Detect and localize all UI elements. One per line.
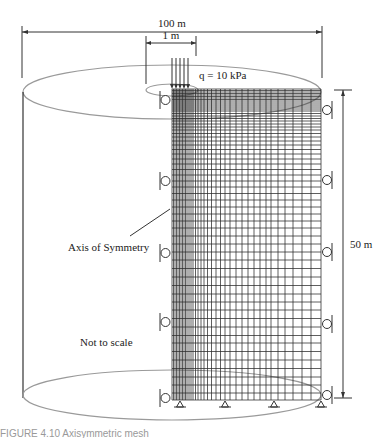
height-dimension: 50 m	[334, 90, 373, 398]
pin-support-icon	[177, 401, 184, 407]
roller-support-icon	[161, 96, 170, 105]
roller-support-icon	[161, 177, 170, 186]
load-label: q = 10 kPa	[199, 69, 247, 81]
pin-support-icon	[271, 401, 278, 407]
finite-element-mesh	[172, 89, 321, 400]
arrow-down-icon	[186, 84, 190, 89]
roller-support-icon	[161, 318, 170, 327]
not-to-scale-note: Not to scale	[80, 336, 133, 348]
arrow-down-icon	[170, 84, 174, 89]
arrow-down-icon	[174, 84, 178, 89]
distributed-load-arrows	[170, 58, 190, 89]
pin-support-icon	[318, 401, 325, 407]
roller-support-icon	[323, 106, 332, 115]
roller-support-icon	[323, 320, 332, 329]
pin-support-icon	[222, 401, 229, 407]
arrow-down-icon	[182, 84, 186, 89]
roller-support-icon	[161, 249, 170, 258]
roller-support-icon	[323, 391, 332, 400]
axis-leader-line	[130, 209, 170, 236]
roller-support-icon	[323, 176, 332, 185]
roller-support-icon	[161, 394, 170, 403]
axis-of-symmetry-label: Axis of Symmetry	[68, 241, 150, 253]
figure-caption: FIGURE 4.10 Axisymmetric mesh	[0, 428, 388, 438]
width-dimension-label: 100 m	[158, 17, 186, 29]
roller-support-icon	[323, 248, 332, 257]
load-width-label: 1 m	[163, 29, 180, 41]
axisymmetric-mesh-diagram: 100 m 1 m q = 10 kPa 50 m Axis of Symmet…	[0, 0, 388, 438]
height-dimension-label: 50 m	[350, 238, 373, 250]
arrow-down-icon	[178, 84, 182, 89]
